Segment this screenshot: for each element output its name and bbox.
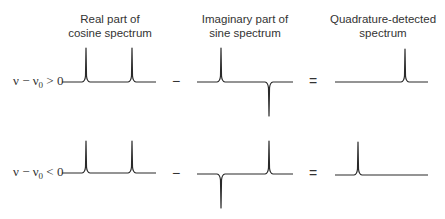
spectrum-row1-result (335, 49, 428, 82)
spectrum-row1-sine (197, 48, 293, 116)
spectrum-row2-result (335, 142, 428, 175)
spectrum-row1-cosine (62, 48, 156, 82)
spectrum-row2-sine (197, 141, 293, 208)
spectrum-row2-cosine (62, 141, 156, 173)
spectra-plot (0, 0, 445, 219)
